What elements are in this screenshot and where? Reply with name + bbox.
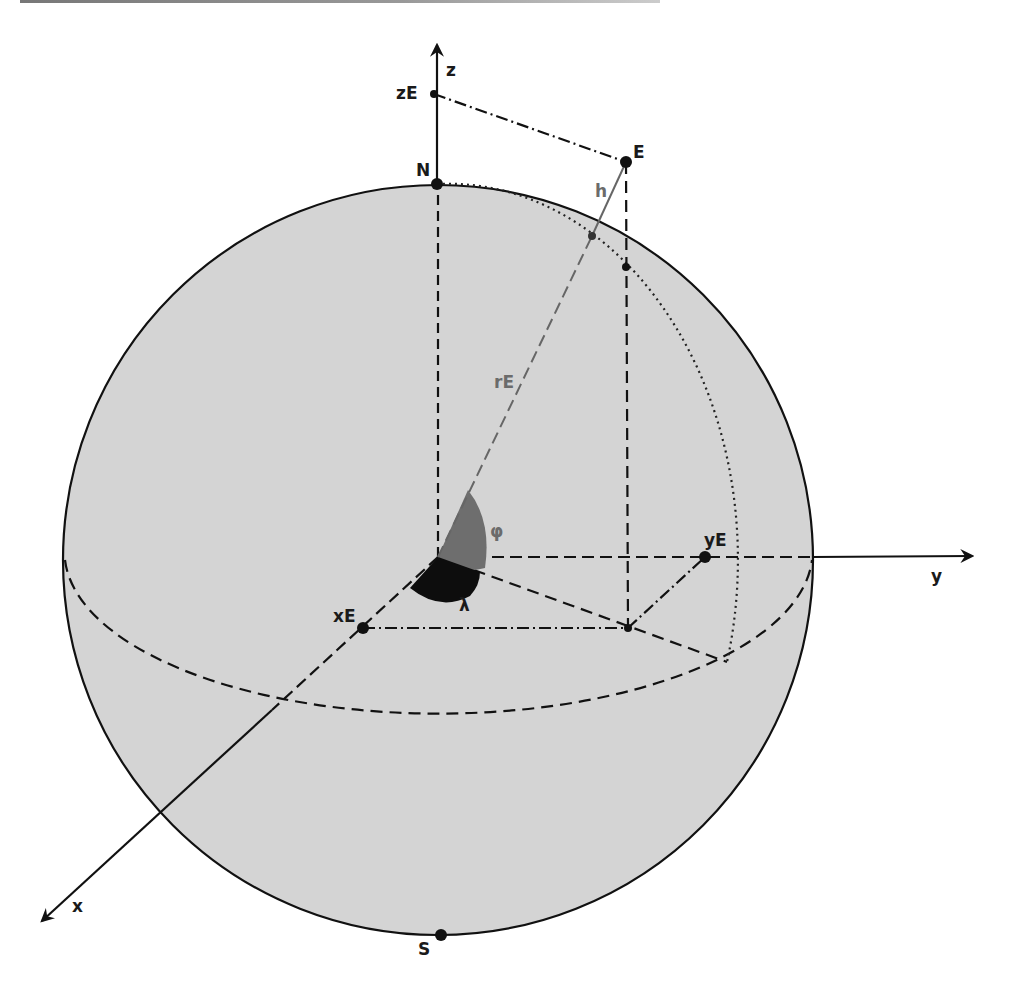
south-pole-label: S xyxy=(418,939,430,959)
y-projection-label: yE xyxy=(704,530,727,550)
y-axis-label: y xyxy=(931,566,942,586)
radius-label: rE xyxy=(494,372,514,392)
z-axis-label: z xyxy=(446,60,456,80)
z-projection-label: zE xyxy=(396,83,418,103)
surface-point xyxy=(588,232,596,240)
point-e-label: E xyxy=(633,142,645,162)
longitude-label: λ xyxy=(459,595,470,615)
z-projection-point xyxy=(430,90,438,98)
x-axis-label: x xyxy=(72,896,83,916)
x-projection-label: xE xyxy=(333,606,356,626)
north-pole-label: N xyxy=(416,160,430,180)
y-projection-point xyxy=(699,551,711,563)
zE-to-E-line xyxy=(434,94,626,162)
latitude-label: φ xyxy=(490,521,503,541)
point-e xyxy=(620,156,632,168)
meridian-vertical-intersection xyxy=(622,263,630,271)
y-axis xyxy=(812,556,972,557)
height-label: h xyxy=(595,181,607,201)
geocentric-diagram: z y x zE N S E xE yE h rE φ λ xyxy=(0,0,1012,988)
foot-point xyxy=(624,624,632,632)
x-projection-point xyxy=(357,622,369,634)
north-pole-point xyxy=(431,178,443,190)
south-pole-point xyxy=(435,929,447,941)
